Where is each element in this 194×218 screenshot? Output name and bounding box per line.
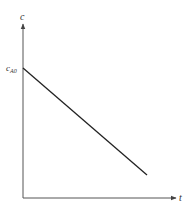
intercept-label: cA0 <box>6 63 17 74</box>
y-axis-label: c <box>20 11 25 22</box>
x-axis-label: t <box>179 192 182 203</box>
concentration-line <box>23 68 147 175</box>
intercept-label-sub: A0 <box>9 68 17 74</box>
diagram-canvas: c t cA0 <box>0 0 194 218</box>
